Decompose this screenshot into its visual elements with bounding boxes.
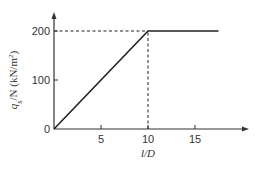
x-tick-label: 5 bbox=[98, 133, 104, 145]
y-axis-label: qs/N (kN/m2) bbox=[7, 51, 24, 110]
chart: 510150100200 l/D qs/N (kN/m2) bbox=[0, 0, 273, 172]
x-axis-arrow-icon bbox=[242, 127, 249, 132]
axes bbox=[52, 12, 250, 132]
data-series bbox=[54, 31, 219, 129]
x-tick-label: 10 bbox=[142, 133, 154, 145]
x-tick-label: 15 bbox=[189, 133, 201, 145]
data-line bbox=[54, 31, 219, 129]
y-tick-label: 0 bbox=[44, 123, 50, 135]
x-axis-label: l/D bbox=[141, 147, 155, 159]
ticks: 510150100200 bbox=[32, 25, 201, 145]
chart-svg: 510150100200 l/D qs/N (kN/m2) bbox=[0, 0, 273, 172]
y-tick-label: 200 bbox=[32, 25, 50, 37]
y-axis-arrow-icon bbox=[52, 12, 57, 19]
y-tick-label: 100 bbox=[32, 74, 50, 86]
